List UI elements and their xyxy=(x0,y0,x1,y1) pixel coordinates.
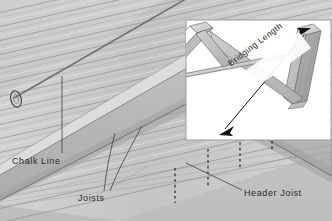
label-chalk-line: Chalk Line xyxy=(12,156,61,166)
label-joists: Joists xyxy=(78,193,105,203)
label-header-joist: Header Joist xyxy=(244,188,302,198)
illustration-root: Chalk Line Joists Header Joist Bridging … xyxy=(0,0,332,221)
